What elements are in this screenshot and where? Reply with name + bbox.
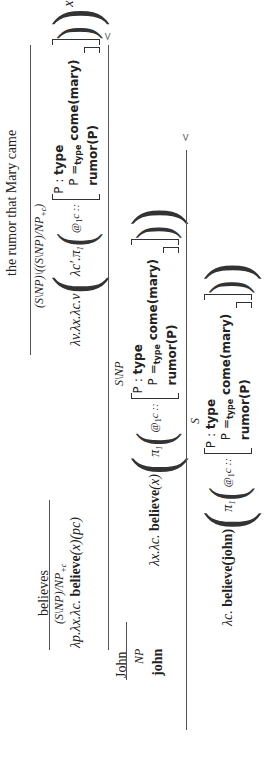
- record-bracket-right: [131, 239, 179, 245]
- at-operator: @1c ::: [69, 204, 84, 233]
- semantics-predicate: believe: [68, 555, 83, 596]
- semantics-arg: (x): [147, 474, 163, 490]
- dtt-record: P : type P =type come(mary) rumor(P): [52, 59, 101, 193]
- record-bracket-left: [204, 448, 252, 454]
- record-bracket-right-inner: [236, 302, 252, 308]
- close-paren: ): [130, 226, 180, 239]
- record-bracket-right-inner: [163, 247, 179, 253]
- semantics-john: john: [150, 649, 166, 676]
- record-bracket-right-inner: [84, 47, 100, 53]
- pi-sub: 1: [155, 446, 164, 450]
- record-row2-label: P =: [146, 364, 160, 385]
- at-symbol: @: [69, 223, 81, 233]
- category-main: (S\NP)\((S\NP)/NP: [32, 217, 46, 308]
- category-john: NP: [132, 649, 147, 664]
- semantics-prefix: λv.λx.λc.v: [68, 293, 84, 346]
- close-paren: ): [204, 263, 252, 280]
- word-john: John: [114, 652, 130, 678]
- category-main: (S\NP)/NP: [52, 573, 66, 624]
- category-close: ): [32, 204, 46, 208]
- lexical-rule-believes: [49, 500, 50, 650]
- close-paren: ): [203, 280, 253, 293]
- at-suffix: c ::: [148, 403, 160, 418]
- record-row2-value: come(mary): [67, 59, 81, 140]
- record-row1-value: type: [204, 399, 218, 429]
- semantics-step2: λc. believe(john) ( π1 ( @1c :: P : type…: [200, 263, 256, 626]
- semantics-suffix: (x)(pc): [68, 517, 83, 555]
- semantics-believes: λp.λx.λc. believe(x)(pc): [68, 517, 84, 648]
- at-operator: @1c ::: [148, 403, 163, 432]
- ccg-derivation: the rumor that Mary came (S\NP)\((S\NP)/…: [0, 0, 266, 776]
- at-sub: 1: [154, 418, 163, 422]
- record-row2-sub: type: [74, 145, 83, 165]
- inner-lambda-text: λc′.π: [68, 250, 83, 276]
- semantics-step1: λx.λc. believe(x) ( π1 ( @1c :: P : type…: [128, 208, 182, 566]
- combination-rule-2: [186, 150, 187, 730]
- record-row1-label: P :: [52, 175, 66, 194]
- backward-application-operator-1: <: [101, 32, 114, 41]
- category-believes: (S\NP)/NP+c: [52, 564, 68, 624]
- record-bracket-left: [131, 393, 179, 399]
- semantics-rumor: λv.λx.λc.v ( λc′.π1 ( @1c :: P : type P …: [48, 0, 104, 346]
- at-symbol: @: [148, 422, 160, 432]
- category-sub: +c: [59, 564, 68, 573]
- lexical-rule-john: [126, 622, 127, 680]
- category-step1: S\NP: [112, 361, 127, 386]
- close-paren: ): [131, 208, 179, 225]
- record-row3-value: rumor(P): [86, 59, 101, 193]
- semantics-predicate: believe: [147, 490, 163, 531]
- record-row1-value: type: [131, 344, 145, 374]
- open-paren: (: [131, 457, 179, 474]
- semantics-predicate: believe(john): [220, 529, 236, 607]
- word-the-rumor-that-mary-came: the rumor that Mary came: [4, 130, 20, 276]
- pi-projection: π1: [147, 446, 164, 457]
- lexical-rule-rumor: [30, 45, 31, 355]
- dtt-record: P : type P =type come(mary) rumor(P): [204, 314, 253, 448]
- record-row2-label: P =: [67, 165, 81, 186]
- at-suffix: c ::: [69, 204, 81, 219]
- pi-sub: 1: [76, 246, 85, 250]
- trailing-args: xc: [61, 0, 77, 7]
- pi-symbol: π: [220, 505, 235, 512]
- semantics-prefix: λp.λx.λc.: [68, 600, 83, 648]
- backward-application-operator-2: <: [179, 133, 192, 142]
- record-bracket-right: [204, 294, 252, 300]
- pi-sub: 1: [228, 501, 237, 505]
- close-paren: ): [51, 26, 101, 39]
- pi-symbol: π: [147, 450, 162, 457]
- category-sub: +c: [39, 208, 48, 217]
- record-row2-sub: type: [226, 399, 235, 419]
- at-operator: @1c ::: [221, 458, 236, 487]
- record-bracket-right: [52, 39, 100, 45]
- semantics-prefix: λc.: [220, 610, 236, 626]
- close-paren: ): [52, 9, 100, 26]
- at-sub: 1: [227, 473, 236, 477]
- pi-projection: π1: [220, 501, 237, 512]
- open-paren: (: [52, 276, 100, 293]
- record-row2-label: P =: [219, 419, 233, 440]
- at-sub: 1: [75, 219, 84, 223]
- record-bracket-left: [52, 194, 100, 200]
- record-row1-value: type: [52, 145, 66, 175]
- open-paren: (: [51, 233, 101, 246]
- open-paren: (: [204, 512, 252, 529]
- record-row3-value: rumor(P): [165, 259, 180, 393]
- combination-rule-1: [108, 45, 109, 650]
- at-symbol: @: [221, 477, 233, 487]
- record-row2-value: come(mary): [146, 259, 160, 340]
- record-row3-value: rumor(P): [238, 314, 253, 448]
- record-row1-label: P :: [131, 374, 145, 393]
- semantics-prefix: λx.λc.: [147, 534, 163, 566]
- open-paren: (: [130, 433, 180, 446]
- open-paren: (: [203, 487, 253, 500]
- record-row1-label: P :: [204, 429, 218, 448]
- dtt-record: P : type P =type come(mary) rumor(P): [131, 259, 180, 393]
- inner-lambda: λc′.π1: [68, 246, 85, 276]
- record-row2-sub: type: [153, 344, 162, 364]
- record-row2-value: come(mary): [219, 314, 233, 395]
- at-suffix: c ::: [221, 458, 233, 473]
